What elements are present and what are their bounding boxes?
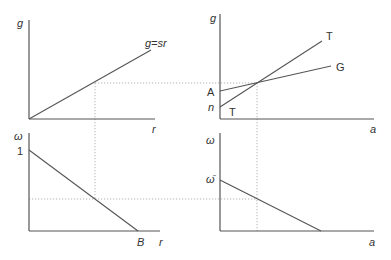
x-intercept-label: B <box>137 236 144 248</box>
curve-omega-a <box>220 180 321 231</box>
x-axis-label: r <box>159 236 164 248</box>
curve-G-label: G <box>336 61 345 73</box>
y-intercept-label: 1 <box>17 145 23 157</box>
panel-top-right: g a T T G A n <box>207 12 376 135</box>
y-intercept-label: ω̄ <box>206 173 217 185</box>
x-axis-label: a <box>370 123 376 135</box>
curve-G <box>220 66 331 91</box>
intercept-n-label: n <box>208 101 214 113</box>
intercept-A-label: A <box>207 86 215 98</box>
curve-T-start-label: T <box>229 106 236 118</box>
panel-top-left: g r g=sr <box>17 17 168 135</box>
four-panel-diagram: g r g=sr g a T T G A n ω 1 B r ω ω̄ a <box>0 0 391 260</box>
y-axis-label: ω <box>14 130 23 142</box>
y-axis-label: g <box>210 12 217 24</box>
curve-label: g=sr <box>145 37 168 49</box>
y-axis-label: ω <box>206 134 215 146</box>
x-axis-label: r <box>152 123 157 135</box>
curve-T-label: T <box>326 30 333 42</box>
curve-omega-r <box>29 150 138 231</box>
panel-bottom-right: ω ω̄ a <box>206 133 375 248</box>
curve-g-sr <box>29 50 151 119</box>
x-axis-label: a <box>369 236 375 248</box>
curve-T <box>220 41 322 107</box>
panel-bottom-left: ω 1 B r <box>14 130 164 248</box>
y-axis-label: g <box>17 17 24 29</box>
